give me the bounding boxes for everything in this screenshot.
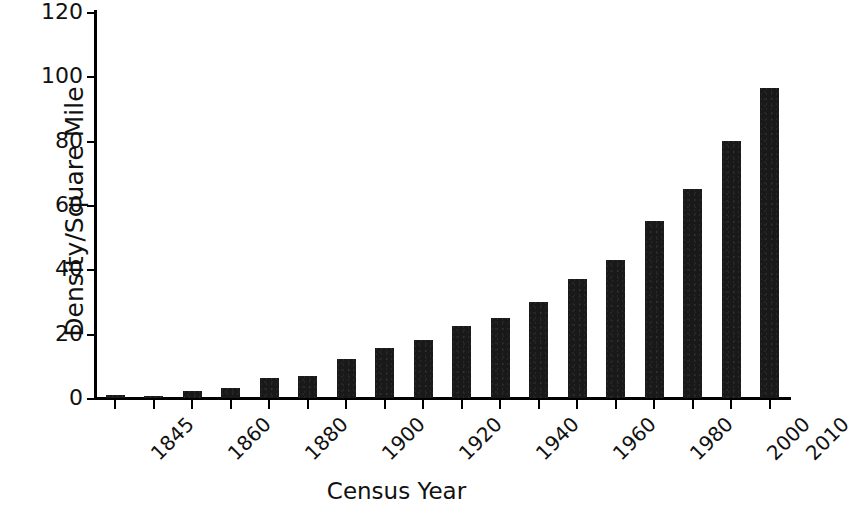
- x-axis-tick-mark: [153, 399, 155, 409]
- x-axis-tick-label: 1845: [146, 412, 199, 465]
- x-axis-tick-mark: [114, 399, 116, 409]
- y-axis-tick-mark: [87, 76, 96, 78]
- bar: [568, 279, 587, 398]
- x-axis-tick-mark: [576, 399, 578, 409]
- bar: [645, 221, 664, 398]
- x-axis-tick-mark: [653, 399, 655, 409]
- bar: [760, 88, 779, 398]
- bar: [683, 189, 702, 398]
- y-axis-tick-label: 0: [69, 385, 83, 410]
- y-axis-tick-mark: [87, 12, 96, 14]
- x-axis-tick-label: 1900: [377, 412, 430, 465]
- y-axis-tick-label: 120: [41, 0, 83, 24]
- y-axis-tick-mark: [87, 269, 96, 271]
- bar: [144, 396, 163, 398]
- bar: [221, 388, 240, 398]
- bar: [337, 359, 356, 398]
- bar: [298, 376, 317, 398]
- x-axis-tick-label: 1980: [685, 412, 738, 465]
- bar: [106, 395, 125, 398]
- x-axis-tick-mark: [230, 399, 232, 409]
- y-axis-tick-mark: [87, 205, 96, 207]
- y-axis-tick-label: 40: [55, 256, 83, 281]
- y-axis-tick-label: 100: [41, 63, 83, 88]
- y-axis-tick-mark: [87, 398, 96, 400]
- x-axis-tick-mark: [692, 399, 694, 409]
- x-axis-tick-label: 1940: [531, 412, 584, 465]
- bar: [260, 378, 279, 398]
- x-axis-tick-mark: [538, 399, 540, 409]
- x-axis-title: Census Year: [0, 478, 793, 504]
- x-axis-tick-label: 1880: [300, 412, 353, 465]
- y-axis-tick-mark: [87, 141, 96, 143]
- x-axis-tick-mark: [730, 399, 732, 409]
- bar: [183, 391, 202, 398]
- bar: [529, 302, 548, 399]
- x-axis-tick-label: 1860: [223, 412, 276, 465]
- x-axis-tick-mark: [422, 399, 424, 409]
- y-axis-tick-label: 60: [55, 192, 83, 217]
- x-axis-tick-mark: [307, 399, 309, 409]
- x-axis-tick-label: 2010: [801, 412, 852, 465]
- plot-area: 020406080100120: [96, 12, 789, 398]
- bar: [606, 260, 625, 398]
- bar: [491, 318, 510, 398]
- y-axis-tick-mark: [87, 334, 96, 336]
- x-axis-tick-mark: [615, 399, 617, 409]
- x-axis-tick-mark: [384, 399, 386, 409]
- x-axis-tick-label: 1920: [454, 412, 507, 465]
- x-axis-tick-mark: [191, 399, 193, 409]
- x-axis-tick-mark: [268, 399, 270, 409]
- x-axis-tick-mark: [345, 399, 347, 409]
- bar: [452, 326, 471, 398]
- x-axis-tick-label: 2000: [762, 412, 815, 465]
- bar: [414, 340, 433, 398]
- x-axis-tick-mark: [461, 399, 463, 409]
- x-axis-tick-mark: [769, 399, 771, 409]
- y-axis-tick-label: 80: [55, 128, 83, 153]
- y-axis-tick-label: 20: [55, 321, 83, 346]
- x-axis-tick-mark: [499, 399, 501, 409]
- bar: [722, 141, 741, 398]
- x-axis-tick-label: 1960: [608, 412, 661, 465]
- bar: [375, 348, 394, 398]
